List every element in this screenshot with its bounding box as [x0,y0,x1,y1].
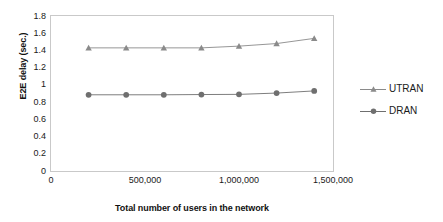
y-tick-label: 1.8 [2,12,46,21]
data-point-marker-triangle [370,86,376,92]
y-tick-label: 0.4 [2,132,46,141]
legend-symbol-circle-icon [360,105,386,117]
data-point-marker-circle [311,88,317,94]
x-axis-label: Total number of users in the network [50,203,334,213]
series-canvas [51,16,333,171]
y-tick-label: 1.2 [2,63,46,72]
x-tick-label: 0 [48,176,53,185]
legend-item-utran[interactable]: UTRAN [360,78,440,100]
data-point-marker-circle [199,92,205,98]
plot-area [50,15,334,172]
y-tick-label: 1.4 [2,46,46,55]
x-axis-tick-labels: 0500,0001,000,0001,500,000 [0,176,443,190]
y-tick-label: 0.8 [2,98,46,107]
data-point-marker-circle [161,92,167,98]
legend-label: UTRAN [386,84,423,94]
y-tick-label: 0.6 [2,115,46,124]
data-point-marker-circle [123,92,129,98]
y-tick-label: 0.2 [2,149,46,158]
series-dran [86,88,317,98]
legend-marker [369,108,378,117]
y-tick-label: 1.6 [2,29,46,38]
x-tick-label: 500,000 [129,176,162,185]
y-tick-label: 1 [2,80,46,89]
legend-symbol-triangle-icon [360,83,386,95]
y-tick-label: 0 [2,167,46,176]
data-point-marker-circle [236,91,242,97]
legend-item-dran[interactable]: DRAN [360,100,440,122]
chart-legend: UTRANDRAN [360,78,440,122]
x-tick-label: 1,500,000 [313,176,353,185]
series-utran [85,35,317,50]
legend-label: DRAN [386,106,417,116]
legend-marker [369,86,378,95]
data-point-marker-circle [371,108,377,114]
data-point-marker-circle [274,90,280,96]
chart-figure: E2E delay (sec.) 1.81.61.41.210.80.60.40… [0,0,443,222]
x-tick-label: 1,000,000 [219,176,259,185]
data-point-marker-circle [86,92,92,98]
data-point-marker-triangle [311,35,317,41]
